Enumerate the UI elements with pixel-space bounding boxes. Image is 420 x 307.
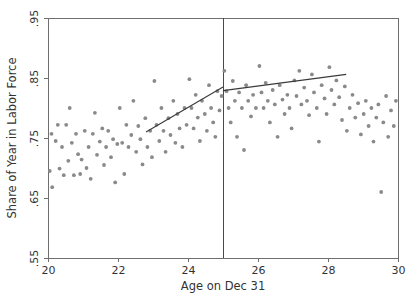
data-point xyxy=(374,116,378,120)
data-point xyxy=(286,93,290,97)
data-point xyxy=(268,121,272,125)
data-point xyxy=(264,81,268,85)
data-point xyxy=(244,83,248,87)
data-point xyxy=(258,64,262,68)
x-tick-label: 24 xyxy=(182,264,196,277)
data-point xyxy=(87,145,91,149)
data-point xyxy=(66,159,70,163)
data-point xyxy=(157,139,161,143)
data-point xyxy=(353,116,357,120)
data-point xyxy=(281,98,285,102)
data-point xyxy=(162,129,166,133)
data-point xyxy=(76,152,80,156)
data-point xyxy=(367,124,371,128)
data-point xyxy=(328,65,332,69)
data-point xyxy=(254,106,258,110)
x-tick-label: 22 xyxy=(112,264,126,277)
data-point xyxy=(315,106,319,110)
data-point xyxy=(50,132,54,136)
x-tick-label: 26 xyxy=(252,264,266,277)
data-point xyxy=(213,135,217,139)
scatter-points xyxy=(48,64,398,194)
data-point xyxy=(80,158,84,162)
data-point xyxy=(60,145,64,149)
data-point xyxy=(54,139,58,143)
data-point xyxy=(74,132,78,136)
data-point xyxy=(260,91,264,95)
data-point xyxy=(320,83,324,87)
data-point xyxy=(134,150,138,154)
data-point xyxy=(56,123,60,127)
data-point xyxy=(340,118,344,122)
data-point xyxy=(266,99,270,103)
data-point xyxy=(136,124,140,128)
data-point xyxy=(207,83,211,87)
data-point xyxy=(362,112,366,116)
data-point xyxy=(178,126,182,130)
fit-right xyxy=(223,74,346,90)
x-tick-label: 28 xyxy=(322,264,336,277)
data-point xyxy=(223,69,227,73)
data-point xyxy=(50,185,54,189)
data-point xyxy=(194,93,198,97)
data-point xyxy=(98,140,102,144)
data-point xyxy=(351,93,355,97)
data-point xyxy=(89,177,93,181)
data-point xyxy=(115,142,119,146)
y-axis-title: Share of Year in Labor Force xyxy=(5,57,19,218)
data-point xyxy=(323,97,327,101)
data-point xyxy=(251,93,255,97)
data-point xyxy=(129,133,133,137)
data-point xyxy=(262,106,266,110)
x-tick-label: 20 xyxy=(42,264,56,277)
data-point xyxy=(370,106,374,110)
data-point xyxy=(48,169,52,173)
data-point xyxy=(174,141,178,145)
data-point xyxy=(113,181,117,185)
data-point xyxy=(317,140,321,144)
data-point xyxy=(249,115,253,119)
data-point xyxy=(231,79,235,83)
data-point xyxy=(95,153,99,157)
data-point xyxy=(377,103,381,107)
data-point xyxy=(348,106,352,110)
data-point xyxy=(93,111,97,115)
data-point xyxy=(335,79,339,83)
y-tick-label: .55 xyxy=(28,250,41,268)
data-point xyxy=(111,137,115,141)
plot-svg: .55.65.75.85.95202224262830Age on Dec 31… xyxy=(0,0,420,307)
data-point xyxy=(310,73,314,77)
data-point xyxy=(283,112,287,116)
data-point xyxy=(198,139,202,143)
data-point xyxy=(100,126,104,130)
data-point xyxy=(109,155,113,159)
x-axis-title: Age on Dec 31 xyxy=(181,279,265,293)
data-point xyxy=(146,145,150,149)
x-tick-label: 30 xyxy=(392,264,406,277)
data-point xyxy=(359,133,363,137)
scatter-chart: .55.65.75.85.95202224262830Age on Dec 31… xyxy=(0,0,420,307)
data-point xyxy=(288,106,292,110)
data-point xyxy=(196,116,200,120)
data-point xyxy=(125,123,129,127)
data-point xyxy=(91,132,95,136)
data-point xyxy=(332,103,336,107)
data-point xyxy=(337,95,341,99)
data-point xyxy=(185,123,189,127)
data-point xyxy=(242,148,246,152)
data-point xyxy=(122,172,126,176)
data-point xyxy=(188,77,192,81)
data-point xyxy=(271,88,275,92)
data-point xyxy=(85,166,89,170)
data-point xyxy=(171,99,175,103)
data-point xyxy=(78,172,82,176)
data-point xyxy=(143,116,147,120)
data-point xyxy=(72,173,76,177)
data-point xyxy=(218,109,222,113)
y-tick-label: .75 xyxy=(28,130,41,148)
data-point xyxy=(345,129,349,133)
data-point xyxy=(141,163,145,167)
data-point xyxy=(379,190,383,194)
data-point xyxy=(330,88,334,92)
data-point xyxy=(307,113,311,117)
